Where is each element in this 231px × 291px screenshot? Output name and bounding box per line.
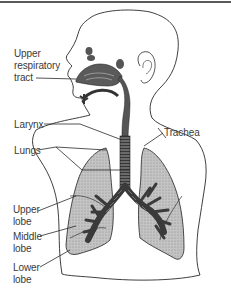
label-upper-respiratory-tract: Upper respiratory tract (14, 48, 60, 84)
label-trachea: Trachea (164, 127, 200, 139)
trachea (120, 136, 130, 188)
label-lower-lobe: Lower lobe (13, 262, 40, 286)
oral-airway (84, 90, 118, 98)
label-lungs: Lungs (14, 145, 41, 157)
nasal-cavity (76, 64, 122, 86)
label-middle-lobe: Middle lobe (13, 231, 42, 255)
label-larynx: Larynx (14, 119, 43, 131)
ear (138, 52, 155, 83)
respiratory-diagram: Upper respiratory tract Larynx Trachea L… (0, 0, 231, 291)
sinus (86, 47, 93, 55)
pharynx (118, 76, 130, 138)
label-upper-lobe: Upper lobe (13, 204, 40, 228)
